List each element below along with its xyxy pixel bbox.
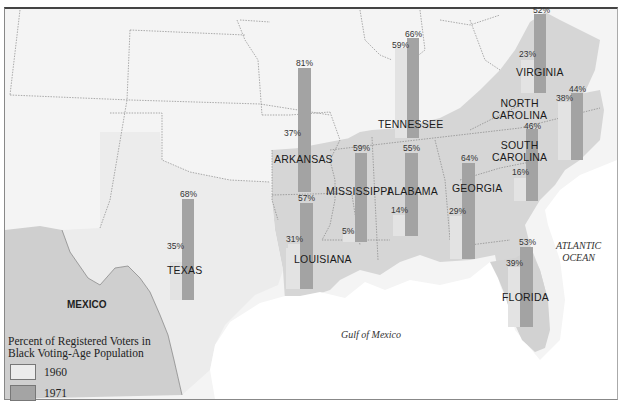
texas-label: TEXAS <box>167 264 202 276</box>
mississippi-label: MISSISSIPPI <box>326 185 391 197</box>
legend-item-1960: 1960 <box>8 364 151 380</box>
tennessee-1960-pct: 59% <box>392 40 409 50</box>
florida-label: FLORIDA <box>502 291 549 303</box>
florida-1960-pct: 39% <box>506 258 523 268</box>
south-carolina-1971-pct: 46% <box>524 121 541 131</box>
virginia-label: VIRGINIA <box>516 66 564 78</box>
alabama-1960-pct: 14% <box>391 205 408 215</box>
louisiana-1960-pct: 31% <box>286 234 303 244</box>
tennessee-1971-pct: 66% <box>405 29 422 39</box>
bar-louisiana-1971 <box>300 203 313 289</box>
north-carolina-label-line1: NORTH <box>492 97 547 109</box>
legend-label-1960: 1960 <box>44 366 67 378</box>
arkansas-1971-pct: 81% <box>296 58 313 68</box>
georgia-label: GEORGIA <box>452 182 502 194</box>
legend-title: Percent of Registered Voters in Black Vo… <box>8 335 151 359</box>
north-carolina-1960-pct: 38% <box>556 93 573 103</box>
mississippi-1960-pct: 5% <box>342 226 354 236</box>
mexico-label: MEXICO <box>67 299 106 310</box>
bar-georgia-1960 <box>450 216 462 259</box>
gulf-of-mexico-label: Gulf of Mexico <box>341 329 401 341</box>
legend-title-line1: Percent of Registered Voters in <box>8 335 151 347</box>
louisiana-label: LOUISIANA <box>294 253 352 265</box>
bar-north-carolina-1960 <box>558 102 571 160</box>
legend-title-line2: Black Voting-Age Population <box>8 347 151 359</box>
bar-north-carolina-1971 <box>571 93 583 160</box>
georgia-1971-pct: 64% <box>461 153 478 163</box>
louisiana-1971-pct: 57% <box>298 193 315 203</box>
south-carolina-label-line1: SOUTH <box>492 139 547 151</box>
atlantic-label-line2: OCEAN <box>556 252 601 264</box>
texas-1960-pct: 35% <box>167 241 184 251</box>
tennessee-label: TENNESSEE <box>378 118 443 130</box>
florida-1971-pct: 53% <box>519 237 536 247</box>
mississippi-1971-pct: 59% <box>353 143 370 153</box>
alabama-label: ALABAMA <box>387 185 438 197</box>
legend-swatch-1960 <box>10 364 36 380</box>
south-carolina-1960-pct: 16% <box>512 167 529 177</box>
legend-item-1971: 1971 <box>8 385 151 401</box>
south-carolina-label-line2: CAROLINA <box>492 151 547 163</box>
north-carolina-label-line2: CAROLINA <box>492 109 547 121</box>
legend: Percent of Registered Voters in Black Vo… <box>8 335 151 402</box>
legend-label-1971: 1971 <box>44 387 67 399</box>
legend-swatch-1971 <box>10 385 36 401</box>
bar-louisiana-1960 <box>288 244 300 289</box>
alabama-1971-pct: 55% <box>403 143 420 153</box>
georgia-1960-pct: 29% <box>449 206 466 216</box>
virginia-1971-pct: 52% <box>533 5 550 15</box>
bar-south-carolina-1960 <box>514 178 526 201</box>
virginia-1960-pct: 23% <box>519 49 536 59</box>
atlantic-label-line1: ATLANTIC <box>556 240 601 252</box>
arkansas-label: ARKANSAS <box>274 153 333 165</box>
bar-alabama-1960 <box>393 215 405 236</box>
arkansas-1960-pct: 37% <box>284 128 301 138</box>
atlantic-ocean-label: ATLANTIC OCEAN <box>556 240 601 264</box>
north-carolina-label: NORTH CAROLINA <box>492 97 547 121</box>
bar-mississippi-1971 <box>355 153 367 242</box>
south-carolina-label: SOUTH CAROLINA <box>492 139 547 163</box>
texas-1971-pct: 68% <box>180 189 197 199</box>
